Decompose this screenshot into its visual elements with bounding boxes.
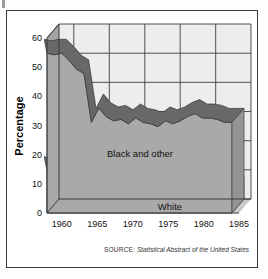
y-tick-30: 30 — [32, 121, 42, 131]
figure-frame: 60 50 40 30 20 10 0 Percentage 1960 1965… — [6, 10, 258, 268]
y-tick-20: 20 — [32, 150, 42, 160]
crop-tick-mark — [2, 0, 5, 8]
y-axis-title: Percentage — [13, 96, 25, 155]
x-tick-1970: 1970 — [123, 219, 143, 229]
x-tick-1975: 1975 — [158, 219, 178, 229]
y-tick-40: 40 — [32, 91, 42, 101]
source-note: SOURCE: Statistical Abstract of the Unit… — [7, 246, 249, 253]
series-label-black-and-other: Black and other — [107, 148, 173, 159]
x-tick-1980: 1980 — [194, 219, 214, 229]
source-title: Statistical Abstract of the United State… — [137, 246, 249, 253]
y-tick-60: 60 — [32, 33, 42, 43]
area-chart: 60 50 40 30 20 10 0 Percentage 1960 1965… — [7, 11, 257, 241]
x-tick-1965: 1965 — [87, 219, 107, 229]
figure-root: 60 50 40 30 20 10 0 Percentage 1960 1965… — [0, 0, 268, 279]
y-tick-10: 10 — [32, 179, 42, 189]
y-tick-0: 0 — [37, 208, 42, 218]
x-tick-1960: 1960 — [52, 219, 72, 229]
series-black-end-face — [232, 108, 244, 213]
series-label-white: White — [158, 201, 182, 212]
source-prefix: SOURCE: — [104, 246, 135, 253]
y-axis-labels: 60 50 40 30 20 10 0 — [32, 33, 42, 218]
y-tick-50: 50 — [32, 62, 42, 72]
x-tick-1985: 1985 — [229, 219, 249, 229]
x-axis-labels: 1960 1965 1970 1975 1980 1985 — [52, 219, 249, 229]
